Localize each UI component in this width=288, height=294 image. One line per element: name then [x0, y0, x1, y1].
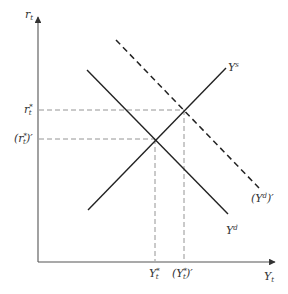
r-star-prime-label: (r*t)′	[14, 133, 33, 144]
ys-curve-label: Ys	[228, 62, 239, 73]
yd-curve-label: Yd	[226, 225, 238, 236]
yd-prime-curve-label: (Yd)′	[251, 193, 274, 204]
y-star-prime-label-close: )′	[186, 267, 193, 280]
y-axis-label-sub: t	[30, 14, 33, 22]
y-star-prime-label: (Y*t)′	[172, 268, 193, 279]
diagram-canvas	[0, 0, 288, 294]
ys-curve-label-sup: s	[235, 61, 239, 69]
yd-prime-curve-label-close: )′	[267, 192, 274, 205]
yd-curve-label-sup: d	[233, 224, 237, 232]
r-star-prime-label-close: )′	[26, 132, 33, 145]
x-axis-label: Yt	[264, 271, 274, 282]
r-star-label-sub: t	[29, 109, 32, 117]
y-star-label-sub: t	[156, 273, 159, 281]
x-axis-label-sub: t	[271, 276, 274, 284]
yd-demand-curve	[87, 70, 228, 214]
r-star-label: r*t	[24, 104, 32, 115]
y-axis-label: rt	[25, 9, 33, 20]
ys-supply-curve	[88, 68, 226, 210]
yd-prime-curve-label-base: Y	[255, 192, 262, 205]
y-star-label: Y*t	[149, 268, 159, 279]
